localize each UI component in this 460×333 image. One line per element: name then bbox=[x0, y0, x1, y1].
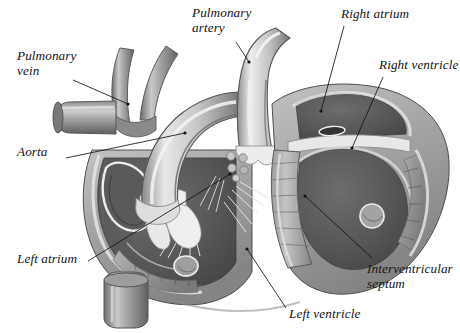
pulmonary-vein-stub bbox=[53, 101, 116, 134]
inferior-vessel-stub bbox=[104, 272, 148, 328]
label-interventricular-septum: Interventricular septum bbox=[367, 261, 453, 291]
leader-pulmonary-artery bbox=[236, 42, 249, 62]
leader-pulmonary-artery-dot bbox=[247, 60, 250, 63]
label-aorta: Aorta bbox=[17, 144, 48, 159]
papillary-muscle-left bbox=[174, 256, 198, 276]
leader-pulmonary-vein-dot bbox=[126, 102, 129, 105]
leader-right-atrium-dot bbox=[319, 109, 322, 112]
label-pulmonary-artery: Pulmonary artery bbox=[192, 5, 252, 35]
leader-aorta-dot bbox=[183, 131, 186, 134]
label-left-atrium: Left atrium bbox=[17, 251, 77, 266]
leader-interventricular-septum-dot bbox=[303, 194, 306, 197]
brachiocephalic-vessels bbox=[112, 46, 178, 137]
leader-left-atrium-dot bbox=[228, 172, 231, 175]
leader-left-ventricle bbox=[247, 249, 286, 308]
leader-right-ventricle-dot bbox=[350, 146, 353, 149]
label-left-ventricle: Left ventricle bbox=[289, 306, 360, 321]
label-pulmonary-vein: Pulmonary vein bbox=[17, 48, 77, 78]
label-right-atrium: Right atrium bbox=[341, 6, 409, 21]
heart-anatomy-figure: Pulmonary vein Pulmonary artery Right at… bbox=[0, 0, 460, 333]
leader-left-ventricle-dot bbox=[245, 247, 248, 250]
label-right-ventricle: Right ventricle bbox=[379, 57, 459, 72]
pulmonary-vein-highlight bbox=[62, 107, 114, 108]
